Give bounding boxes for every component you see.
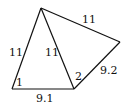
geometry-diagram: 11 11 11 9.2 9.1 1 2	[0, 0, 127, 106]
label-angle-2: 2	[75, 70, 82, 83]
label-edge-lower-right: 9.2	[100, 64, 118, 77]
label-angle-1: 1	[16, 76, 23, 89]
diagram-svg: 11 11 11 9.2 9.1 1 2	[0, 0, 127, 106]
label-edge-bottom: 9.1	[36, 92, 54, 105]
label-edge-left: 11	[9, 46, 23, 59]
label-edge-top-right: 11	[82, 13, 96, 26]
label-edge-diagonal: 11	[45, 46, 59, 59]
